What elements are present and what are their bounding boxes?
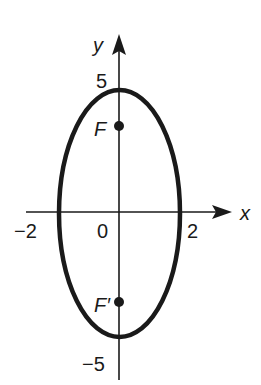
y-axis-label: y: [91, 34, 104, 56]
x-tick-neg2: −2: [14, 220, 37, 242]
x-tick-2: 2: [187, 220, 198, 242]
focus-label-f: F: [94, 118, 108, 140]
x-axis-label: x: [239, 202, 251, 224]
ellipse-diagram: x y 5 −5 −2 2 0 F F′: [0, 0, 261, 385]
focus-point-f-prime: [114, 297, 124, 307]
y-tick-5: 5: [96, 70, 107, 92]
y-tick-neg5: −5: [82, 353, 105, 375]
origin-label: 0: [97, 220, 108, 242]
focus-point-f: [114, 121, 124, 131]
focus-label-f-prime: F′: [94, 294, 111, 316]
